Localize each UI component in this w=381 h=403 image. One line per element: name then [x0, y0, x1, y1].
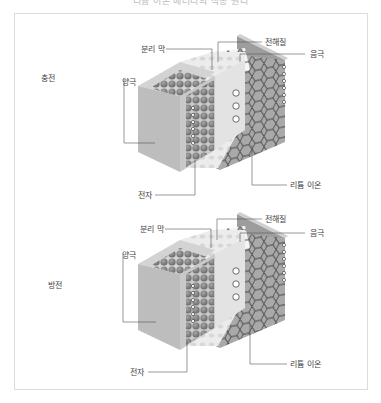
label-anode: 음극 — [310, 50, 324, 59]
label-cathode: 양극 — [122, 251, 136, 260]
state-label-discharge: 방전 — [48, 281, 62, 290]
label-separator: 분리 막 — [141, 45, 165, 54]
label-electron: 전자 — [138, 191, 152, 200]
label-lithium-ion: 리튬 이온 — [290, 360, 321, 369]
label-anode: 음극 — [310, 229, 324, 238]
battery-diagrams — [0, 0, 381, 403]
label-separator: 분리 막 — [140, 225, 164, 234]
label-electrolyte: 전해질 — [265, 38, 286, 47]
state-label-charge: 충전 — [41, 74, 55, 83]
charge-battery-illustration — [138, 34, 288, 172]
label-lithium-ion: 리튬 이온 — [290, 181, 321, 190]
label-electrolyte: 전해질 — [265, 215, 286, 224]
label-electron: 전자 — [130, 368, 144, 377]
label-cathode: 양극 — [122, 78, 136, 87]
